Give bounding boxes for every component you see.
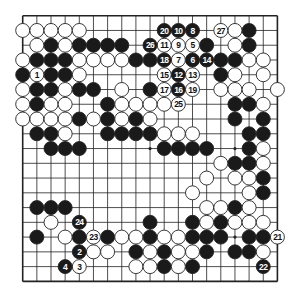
- black-stone: [228, 97, 242, 111]
- black-stone: [200, 142, 214, 156]
- move-number-label: 24: [75, 217, 84, 227]
- white-stone: [44, 112, 58, 126]
- white-stone: [200, 201, 214, 215]
- black-stone: [30, 201, 44, 215]
- move-11: 11: [157, 38, 171, 52]
- black-stone: [256, 127, 270, 141]
- black-stone: [58, 142, 72, 156]
- black-stone: [200, 245, 214, 259]
- white-stone: [157, 127, 171, 141]
- white-stone: [16, 83, 30, 97]
- move-6: 6: [186, 53, 200, 67]
- move-number-label: 15: [160, 70, 169, 80]
- white-stone: [30, 38, 44, 52]
- white-stone: [72, 23, 86, 37]
- white-stone: [228, 215, 242, 229]
- black-stone: [44, 83, 58, 97]
- move-number-label: 10: [174, 26, 183, 36]
- black-stone: [256, 112, 270, 126]
- black-stone: [58, 201, 72, 215]
- move-number-label: 13: [188, 70, 197, 80]
- move-27: 27: [214, 23, 228, 37]
- black-stone: [157, 142, 171, 156]
- black-stone: [72, 83, 86, 97]
- white-stone: [242, 53, 256, 67]
- white-stone: [157, 230, 171, 244]
- white-stone: [58, 97, 72, 111]
- move-number-label: 25: [174, 99, 183, 109]
- star-point: [233, 236, 236, 239]
- black-stone: [143, 215, 157, 229]
- star-point: [148, 147, 151, 150]
- white-stone: [129, 260, 143, 274]
- move-4: 4: [58, 260, 72, 274]
- white-stone: [242, 186, 256, 200]
- white-stone: [58, 127, 72, 141]
- black-stone: [44, 68, 58, 82]
- black-stone: [242, 245, 256, 259]
- white-stone: [186, 186, 200, 200]
- black-stone: [86, 83, 100, 97]
- black-stone: [129, 53, 143, 67]
- move-number-label: 27: [217, 26, 226, 36]
- black-stone: [228, 112, 242, 126]
- white-stone: [171, 245, 185, 259]
- white-stone: [186, 127, 200, 141]
- black-stone: [214, 53, 228, 67]
- white-stone: [44, 97, 58, 111]
- white-stone: [58, 23, 72, 37]
- black-stone: [242, 97, 256, 111]
- white-stone: [44, 23, 58, 37]
- white-stone: [200, 215, 214, 229]
- white-stone: [16, 23, 30, 37]
- move-22: 22: [256, 260, 270, 274]
- white-stone: [101, 245, 115, 259]
- move-15: 15: [157, 68, 171, 82]
- black-stone: [228, 156, 242, 170]
- white-stone: [86, 245, 100, 259]
- white-stone: [228, 171, 242, 185]
- black-stone: [44, 142, 58, 156]
- black-stone: [129, 245, 143, 259]
- white-stone: [256, 245, 270, 259]
- move-3: 3: [72, 260, 86, 274]
- black-stone: [44, 127, 58, 141]
- black-stone: [129, 112, 143, 126]
- move-25: 25: [171, 97, 185, 111]
- white-stone: [228, 83, 242, 97]
- black-stone: [171, 142, 185, 156]
- white-stone: [86, 53, 100, 67]
- move-5: 5: [186, 38, 200, 52]
- white-stone: [143, 112, 157, 126]
- white-stone: [101, 53, 115, 67]
- black-stone: [186, 260, 200, 274]
- black-stone: [101, 38, 115, 52]
- white-stone: [171, 127, 185, 141]
- white-stone: [256, 215, 270, 229]
- white-stone: [214, 201, 228, 215]
- black-stone: [101, 112, 115, 126]
- white-stone: [16, 53, 30, 67]
- black-stone: [157, 245, 171, 259]
- white-stone: [270, 83, 284, 97]
- move-18: 18: [157, 53, 171, 67]
- black-stone: [214, 230, 228, 244]
- black-stone: [72, 230, 86, 244]
- white-stone: [115, 112, 129, 126]
- move-number-label: 26: [146, 40, 155, 50]
- white-stone: [115, 53, 129, 67]
- black-stone: [101, 97, 115, 111]
- go-board: 1234567891011121314151617181920212223242…: [0, 0, 301, 301]
- move-number-label: 14: [203, 55, 212, 65]
- white-stone: [242, 201, 256, 215]
- black-stone: [72, 142, 86, 156]
- black-stone: [143, 127, 157, 141]
- white-stone: [30, 23, 44, 37]
- black-stone: [200, 230, 214, 244]
- black-stone: [30, 53, 44, 67]
- white-stone: [129, 230, 143, 244]
- move-9: 9: [171, 38, 185, 52]
- black-stone: [228, 53, 242, 67]
- move-number-label: 17: [160, 85, 169, 95]
- black-stone: [30, 97, 44, 111]
